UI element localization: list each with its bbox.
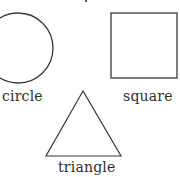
square-shape: [111, 13, 177, 78]
triangle-label: triangle: [58, 159, 115, 175]
square-label: square: [123, 88, 173, 104]
circle-shape: [0, 13, 53, 83]
circle-label: circle: [2, 88, 43, 104]
triangle-shape: [46, 91, 121, 156]
